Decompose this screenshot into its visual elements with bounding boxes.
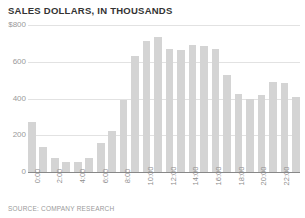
y-tick-label-0: 0: [0, 168, 26, 176]
bar[interactable]: [166, 49, 174, 172]
x-tick-slot-empty: 15:00: [198, 174, 209, 198]
x-tick-slot-empty: 7:00: [107, 174, 118, 198]
bar[interactable]: [200, 46, 208, 172]
x-tick-slot-empty: 21:00: [266, 174, 277, 198]
x-tick-slot-empty: 11:00: [153, 174, 164, 198]
x-tick-slot: 4:00: [73, 174, 84, 198]
bar[interactable]: [131, 56, 139, 172]
bar[interactable]: [97, 143, 105, 172]
bar[interactable]: [235, 94, 243, 172]
x-tick-slot: 16:00: [209, 174, 220, 198]
x-tick-slot: 8:00: [119, 174, 130, 198]
x-tick-slot: 14:00: [187, 174, 198, 198]
x-tick-slot: 0:00: [28, 174, 39, 198]
x-axis-labels: 0:001:002:003:004:005:006:007:008:009:00…: [28, 174, 300, 198]
bar[interactable]: [28, 122, 36, 172]
x-tick-slot: 18:00: [232, 174, 243, 198]
x-tick-slot: 2:00: [51, 174, 62, 198]
y-tick-label-200: 200: [0, 131, 26, 139]
x-tick-slot-empty: 13:00: [175, 174, 186, 198]
bar[interactable]: [246, 99, 254, 173]
y-axis-labels: 0200400600$800: [0, 25, 26, 172]
bar[interactable]: [154, 37, 162, 172]
x-tick-slot: 10:00: [141, 174, 152, 198]
bar[interactable]: [120, 100, 128, 172]
y-tick-label-600: 600: [0, 58, 26, 66]
x-tick-slot: 20:00: [255, 174, 266, 198]
x-tick-slot-empty: 3:00: [62, 174, 73, 198]
x-tick-slot-empty: 19:00: [243, 174, 254, 198]
bar[interactable]: [292, 97, 300, 172]
sales-bar-chart-card: SALES DOLLARS, IN THOUSANDS 0200400600$8…: [0, 0, 305, 218]
bar[interactable]: [108, 131, 116, 172]
x-tick-slot-empty: 17:00: [221, 174, 232, 198]
chart-title: SALES DOLLARS, IN THOUSANDS: [8, 5, 173, 16]
bar[interactable]: [258, 95, 266, 172]
y-tick-label-400: 400: [0, 95, 26, 103]
x-tick-slot: 6:00: [96, 174, 107, 198]
x-tick-slot-empty: 23:00: [289, 174, 300, 198]
bar-series: [28, 25, 300, 172]
bar[interactable]: [269, 82, 277, 172]
x-tick-slot-empty: 9:00: [130, 174, 141, 198]
x-tick-slot: 22:00: [277, 174, 288, 198]
y-tick-label-800: $800: [0, 21, 26, 29]
x-tick-slot-empty: 5:00: [85, 174, 96, 198]
bar[interactable]: [212, 49, 220, 172]
x-tick-slot-empty: 1:00: [39, 174, 50, 198]
bar[interactable]: [177, 50, 185, 172]
bar[interactable]: [281, 83, 289, 172]
source-note: SOURCE: COMPANY RESEARCH: [8, 205, 114, 212]
bar[interactable]: [143, 41, 151, 172]
x-tick-slot: 12:00: [164, 174, 175, 198]
bar[interactable]: [223, 75, 231, 172]
bar[interactable]: [189, 45, 197, 172]
plot-area: [28, 25, 300, 172]
